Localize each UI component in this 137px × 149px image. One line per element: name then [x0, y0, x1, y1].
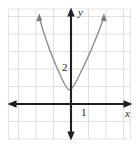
x-tick-label-1: 1: [81, 107, 87, 118]
y-axis-label: y: [78, 7, 83, 18]
grid-lines: [9, 9, 131, 139]
x-axis-label: x: [125, 108, 130, 119]
y-tick-label-2: 2: [62, 62, 68, 73]
graph-figure: y x 2 1: [0, 0, 137, 149]
coordinate-plane: [0, 0, 137, 149]
y-axis: [67, 8, 74, 141]
